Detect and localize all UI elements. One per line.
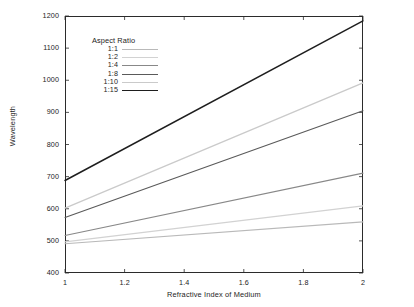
legend-color-swatch: [122, 45, 158, 53]
legend-item-1-4: 1:4: [90, 61, 168, 69]
series-line-1-4: [65, 173, 363, 235]
series-line-1-8: [65, 111, 363, 218]
legend-color-swatch: [122, 78, 158, 86]
chart-canvas: [0, 0, 414, 307]
x-axis-title: Refractive Index of Medium: [65, 291, 363, 299]
legend-item-1-8: 1:8: [90, 70, 168, 78]
legend-color-swatch: [122, 53, 158, 61]
legend-color-swatch: [122, 86, 158, 94]
series-line-1-1: [65, 222, 363, 244]
legend-item-1-15: 1:15: [90, 86, 168, 94]
legend-color-swatch: [122, 70, 158, 78]
legend-item-1-1: 1:1: [90, 45, 168, 53]
chart-legend: Aspect Ratio 1:11:21:41:81:101:15: [90, 36, 168, 94]
chart-figure: 400500600700800900100011001200 11.21.41.…: [0, 0, 414, 307]
series-line-1-2: [65, 206, 363, 242]
legend-item-label: 1:15: [90, 86, 118, 94]
legend-item-1-10: 1:10: [90, 78, 168, 86]
series-line-1-10: [65, 83, 363, 208]
legend-rows: 1:11:21:41:81:101:15: [90, 45, 168, 94]
legend-item-1-2: 1:2: [90, 53, 168, 61]
legend-title: Aspect Ratio: [90, 36, 168, 45]
y-axis-title: Wavelength: [9, 76, 17, 176]
legend-color-swatch: [122, 61, 158, 69]
